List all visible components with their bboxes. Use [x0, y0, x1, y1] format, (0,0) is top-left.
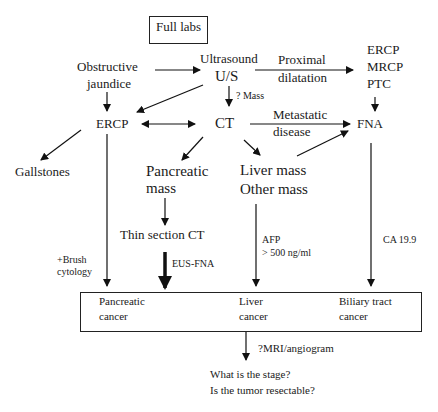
ca199-label: CA 19.9: [383, 234, 416, 246]
liver-cancer-line2: cancer: [239, 310, 268, 323]
afp-label-line2: > 500 ng/ml: [262, 247, 311, 259]
liver-mass-label: Liver mass: [240, 162, 306, 179]
liver-cancer-line1: Liver: [239, 295, 263, 308]
pancreatic-cancer-line2: cancer: [99, 310, 128, 323]
thin-section-ct-node: Thin section CT: [120, 228, 205, 243]
stage-question: What is the stage?: [210, 368, 290, 381]
other-mass-label: Other mass: [240, 181, 308, 198]
biliary-tract-cancer-line2: cancer: [339, 310, 368, 323]
obstructive-jaundice-line1: Obstructive: [77, 60, 138, 75]
gallstones-node: Gallstones: [15, 165, 70, 180]
proximal-dilatation-line2: dilatation: [278, 71, 327, 86]
ptc-label: PTC: [367, 77, 391, 92]
mrcp-label: MRCP: [367, 60, 403, 75]
metastatic-disease-line1: Metastatic: [273, 108, 327, 123]
full-labs-label: Full labs: [156, 20, 201, 35]
ultrasound-label: Ultrasound: [200, 52, 258, 67]
afp-label-line1: AFP: [262, 234, 280, 246]
proximal-dilatation-line1: Proximal: [278, 53, 326, 68]
brush-cytology-line1: +Brush: [57, 254, 87, 266]
mri-angiogram-label: ?MRI/angiogram: [258, 342, 334, 355]
brush-cytology-line2: cytology: [57, 266, 92, 278]
eus-fna-label: EUS-FNA: [172, 258, 214, 270]
ct-node: CT: [215, 115, 234, 132]
ercp-right-label: ERCP: [367, 43, 400, 58]
biliary-tract-cancer-line1: Biliary tract: [339, 295, 392, 308]
pancreatic-cancer-line1: Pancreatic: [99, 295, 145, 308]
pancreatic-mass-line1: Pancreatic: [146, 163, 208, 180]
mass-query-label: ? Mass: [236, 90, 264, 102]
resectable-question: Is the tumor resectable?: [210, 384, 315, 397]
metastatic-disease-line2: disease: [273, 125, 311, 140]
fna-node: FNA: [357, 117, 383, 132]
obstructive-jaundice-line2: jaundice: [87, 77, 131, 92]
ultrasound-us-label: U/S: [215, 68, 238, 85]
pancreatic-mass-line2: mass: [146, 180, 176, 197]
ercp-node: ERCP: [96, 117, 129, 132]
